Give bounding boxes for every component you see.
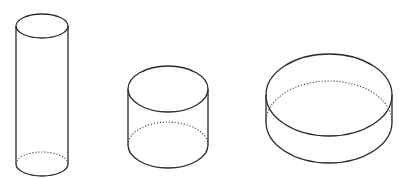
bottom-visible-edge <box>16 164 68 176</box>
bottom-visible-edge <box>128 145 208 168</box>
top-face <box>16 14 68 38</box>
short-wide-cylinder <box>266 54 392 163</box>
cylinders-diagram <box>0 0 410 178</box>
top-face <box>128 66 208 112</box>
tall-narrow-cylinder <box>16 14 68 176</box>
bottom-hidden-edge <box>16 152 68 164</box>
medium-cylinder <box>128 66 208 168</box>
bottom-hidden-edge <box>266 81 392 122</box>
bottom-visible-edge <box>266 122 392 163</box>
bottom-hidden-edge <box>128 122 208 145</box>
top-face <box>266 54 392 136</box>
